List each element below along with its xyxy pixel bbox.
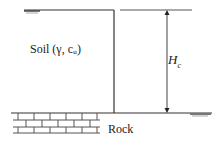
ground-hatch-icon [190, 114, 211, 116]
rock-brick-pattern [13, 113, 100, 133]
height-symbol: H [168, 52, 177, 67]
arrow-up-icon [165, 10, 170, 15]
height-subscript: c [177, 61, 181, 70]
ground-hatch-icon [24, 11, 40, 13]
critical-height-label: Hc [168, 52, 181, 70]
arrow-down-icon [165, 108, 170, 113]
rock-label: Rock [108, 122, 133, 137]
soil-label: Soil (γ, cᵤ) [30, 42, 81, 57]
